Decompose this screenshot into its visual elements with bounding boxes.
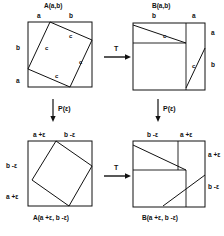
inscribed-square-bottom-left [32,141,92,206]
edge-label-left-upper-b: b [16,45,20,52]
hyp-label-c-upper-tr: c [163,33,166,39]
edge-label-br-right-beps: b -ε [208,184,219,191]
edge-label-tr-top-a: a [192,13,196,20]
edge-label-br-right-aeps: a +ε [208,152,220,159]
figure-container: A(a,b) a b b a c c c c B(a,b) b a a b c … [0,0,224,236]
edge-label-tr-right-a: a [211,30,215,37]
arrow-right-vertical-graphic [155,99,160,122]
caption-panel-top-right: B(a,b) [152,3,170,10]
edge-label-bl-left-aeps: a +ε [6,194,18,201]
hyp-label-c-lower-tr: c [192,63,195,69]
edge-label-br-top-aeps: a +ε [180,132,192,139]
outer-square-bottom-right [133,141,205,207]
arrow-label-right-P: P(ε) [163,105,176,112]
panel-top-right-graphics [133,23,205,90]
edge-label-top-left-b: b [69,13,73,20]
caption-panel-top-left: A(a,b) [44,3,62,10]
hypotenuse-lower-top-right [186,48,205,88]
panel-bottom-right-graphics [133,141,205,207]
caption-panel-bottom-right: B(a +ε, b -ε) [142,215,178,222]
arrow-bottom-horizontal-graphic [104,173,131,179]
side-label-c-top: c [69,33,72,39]
arrow-label-top-T: T [114,45,118,52]
edge-label-bl-left-beps: b -ε [6,163,17,170]
arrow-top-horizontal-graphic [104,54,131,60]
edge-label-br-top-beps: b -ε [147,132,158,139]
edge-label-tr-right-b: b [211,62,215,69]
arrow-left-vertical-graphic [50,99,55,122]
side-label-c-right: c [79,59,82,65]
outer-square-top-left [28,22,92,87]
edge-label-top-left-a: a [37,13,41,20]
diagram-canvas [0,0,224,236]
arrow-label-left-P: P(ε) [58,105,71,112]
hypotenuse-upper-top-right [133,25,186,43]
hypotenuse-lower-bottom-right [163,175,205,206]
arrow-label-bottom-T: T [114,164,118,171]
edge-label-bl-top-beps: b -ε [64,132,75,139]
inscribed-square-top-left [28,22,92,87]
edge-label-left-lower-a: a [16,78,20,85]
edge-label-tr-top-b: b [152,13,156,20]
side-label-c-left: c [45,45,48,51]
caption-panel-bottom-left: A(a +ε, b -ε) [33,215,69,222]
outer-square-bottom-left [28,141,92,206]
outer-square-top-right [133,23,205,90]
panel-top-left-graphics [28,22,92,87]
side-label-c-bottom: c [55,73,58,79]
panel-bottom-left-graphics [28,141,92,206]
edge-label-bl-top-aeps: a +ε [33,132,45,139]
